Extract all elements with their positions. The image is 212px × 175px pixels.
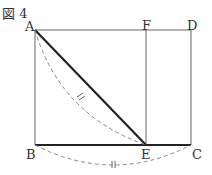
point-label-A: A (25, 20, 34, 33)
point-label-B: B (26, 148, 36, 161)
arc-BC (35, 145, 191, 165)
equal-mark-AE (77, 93, 85, 100)
segment-AE (35, 30, 146, 145)
point-label-E: E (141, 148, 151, 161)
equal-mark-BC (112, 161, 115, 168)
point-label-D: D (187, 19, 197, 32)
point-label-F: F (142, 19, 151, 32)
point-label-C: C (192, 148, 202, 161)
